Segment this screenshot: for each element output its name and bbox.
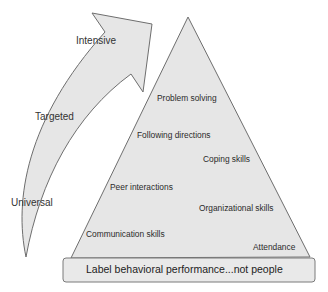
- diagram-canvas: Intensive Targeted Universal Problem sol…: [0, 0, 328, 292]
- skill-coping-skills: Coping skills: [203, 155, 250, 163]
- tier-label-intensive: Intensive: [76, 36, 116, 46]
- skill-communication-skills: Communication skills: [86, 230, 165, 238]
- skill-attendance: Attendance: [253, 243, 295, 251]
- tier-label-universal: Universal: [11, 198, 53, 208]
- base-caption: Label behavioral performance...not peopl…: [86, 264, 283, 275]
- skill-problem-solving: Problem solving: [157, 94, 217, 102]
- tier-label-targeted: Targeted: [35, 112, 74, 122]
- skill-organizational-skills: Organizational skills: [199, 204, 273, 212]
- skill-peer-interactions: Peer interactions: [110, 183, 173, 191]
- skill-following-directions: Following directions: [137, 131, 211, 139]
